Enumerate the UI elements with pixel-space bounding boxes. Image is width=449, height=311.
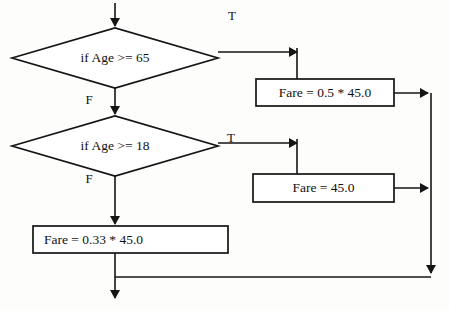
node-label: Fare = 0.33 * 45.0 — [44, 232, 143, 247]
node-label: if Age >= 18 — [81, 138, 150, 153]
arrowhead-trunk_bottom-icon — [426, 265, 436, 274]
node-process-fare-half[interactable]: Fare = 0.5 * 45.0 — [256, 79, 394, 106]
edge-label-true_65: T — [228, 8, 236, 23]
node-process-fare-full[interactable]: Fare = 45.0 — [253, 174, 394, 202]
node-decision-age-18[interactable]: if Age >= 18 — [12, 116, 218, 176]
nodes-layer: if Age >= 65if Age >= 18Fare = 0.5 * 45.… — [12, 28, 394, 253]
arrowhead-half_trunk-icon — [420, 88, 429, 98]
edge-label-false_65: F — [85, 92, 92, 107]
node-label: if Age >= 65 — [81, 50, 150, 65]
arrowhead-false_18-icon — [110, 216, 120, 225]
node-label: Fare = 45.0 — [293, 180, 355, 195]
node-process-fare-child[interactable]: Fare = 0.33 * 45.0 — [33, 226, 228, 253]
node-decision-age-65[interactable]: if Age >= 65 — [12, 28, 218, 88]
arrowhead-entry-icon — [110, 18, 120, 27]
edge-label-true_18: T — [227, 130, 235, 145]
flow-edge-true_65 — [218, 48, 297, 79]
arrowhead-full_trunk-icon — [420, 183, 429, 193]
flowchart-canvas: if Age >= 65if Age >= 18Fare = 0.5 * 45.… — [0, 0, 449, 311]
node-label: Fare = 0.5 * 45.0 — [279, 85, 372, 100]
edge-label-false_18: F — [85, 171, 92, 186]
arrowhead-false_65-icon — [110, 106, 120, 115]
flowchart-svg: if Age >= 65if Age >= 18Fare = 0.5 * 45.… — [0, 0, 449, 311]
arrowhead-exit-icon — [110, 290, 120, 299]
